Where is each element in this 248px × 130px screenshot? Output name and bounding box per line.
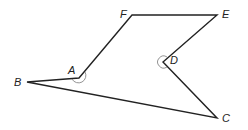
vertex-label-f: F [120,9,127,20]
vertex-label-a: A [68,65,75,76]
vertex-label-d: D [170,55,178,66]
vertex-label-b: B [14,77,21,88]
hexagon-outline [27,15,217,118]
vertex-label-e: E [222,9,229,20]
polygon-diagram: A B C D E F [0,0,248,130]
vertex-label-c: C [222,113,230,124]
